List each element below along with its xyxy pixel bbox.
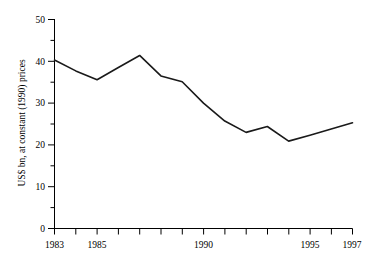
x-tick-label-1995: 1995	[301, 240, 320, 250]
x-tick-label-1983: 1983	[45, 240, 64, 250]
chart-container: US$ bn, at constant (1990) prices 0 10 2…	[0, 0, 369, 262]
x-axis-labels: 1983 1985 1990 1995 1997	[45, 240, 362, 250]
axes	[54, 19, 353, 229]
y-tick-label-30: 30	[36, 98, 46, 108]
y-tick-label-0: 0	[40, 224, 45, 234]
x-tick-label-1990: 1990	[194, 240, 213, 250]
x-tick-label-1997: 1997	[343, 240, 362, 250]
y-axis-title: US$ bn, at constant (1990) prices	[17, 59, 28, 186]
line-chart: US$ bn, at constant (1990) prices 0 10 2…	[0, 0, 369, 262]
y-axis-ticks	[48, 20, 55, 229]
x-tick-label-1985: 1985	[88, 240, 107, 250]
x-axis-ticks	[55, 229, 353, 235]
y-tick-label-40: 40	[36, 57, 46, 67]
y-axis-labels: 0 10 20 30 40 50	[36, 15, 46, 234]
y-tick-label-10: 10	[36, 182, 46, 192]
y-tick-label-20: 20	[36, 140, 46, 150]
y-tick-label-50: 50	[36, 15, 46, 25]
data-series-line	[55, 55, 353, 141]
